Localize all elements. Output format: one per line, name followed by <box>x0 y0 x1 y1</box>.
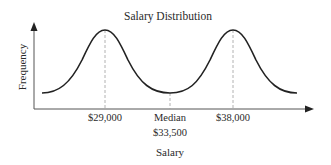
tick-label-median: Median <box>154 112 187 123</box>
y-axis-label: Frequency <box>16 43 28 90</box>
axes <box>31 22 315 113</box>
chart-title: Salary Distribution <box>124 10 212 23</box>
reference-lines <box>105 30 233 109</box>
tick-label-29000: $29,000 <box>88 112 122 123</box>
x-axis-label: Salary <box>156 146 185 158</box>
distribution-curve <box>42 30 297 93</box>
chart: Salary Distribution Frequency $29,000 Me… <box>0 0 331 165</box>
tick-label-median-value: $33,500 <box>153 127 187 138</box>
y-axis-arrow-icon <box>31 22 38 31</box>
tick-label-38000: $38,000 <box>216 112 250 123</box>
x-axis-arrow-icon <box>305 106 314 113</box>
